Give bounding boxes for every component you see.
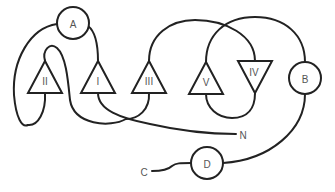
node-i: I — [81, 61, 115, 93]
label-i: I — [97, 76, 100, 87]
label-iii: III — [145, 76, 153, 87]
label-ii: II — [42, 76, 48, 87]
label-a: A — [70, 19, 77, 30]
label-c: C — [140, 167, 147, 178]
label-v: V — [203, 77, 210, 88]
label-iv: IV — [249, 67, 259, 78]
node-v: V — [189, 62, 223, 94]
node-a: A — [57, 7, 89, 39]
label-b: B — [302, 74, 309, 85]
wire-iii-to-iv-arc — [149, 20, 255, 61]
node-iii: III — [132, 61, 166, 93]
wire-a-to-i — [88, 26, 98, 61]
knot-diagram: A II I III V IV B D N C — [0, 0, 335, 192]
node-b: B — [289, 62, 321, 94]
wire-iii-bottom — [126, 93, 149, 119]
wire-v-iv-loop — [206, 93, 255, 118]
wire-b-to-d — [223, 94, 305, 163]
wire-ii-bottom-loop — [28, 93, 45, 125]
node-iv: IV — [238, 61, 272, 93]
label-n: N — [239, 130, 246, 141]
label-d: D — [203, 159, 210, 170]
wire-d-to-c — [152, 163, 191, 171]
node-d: D — [191, 147, 223, 179]
node-ii: II — [28, 61, 62, 93]
